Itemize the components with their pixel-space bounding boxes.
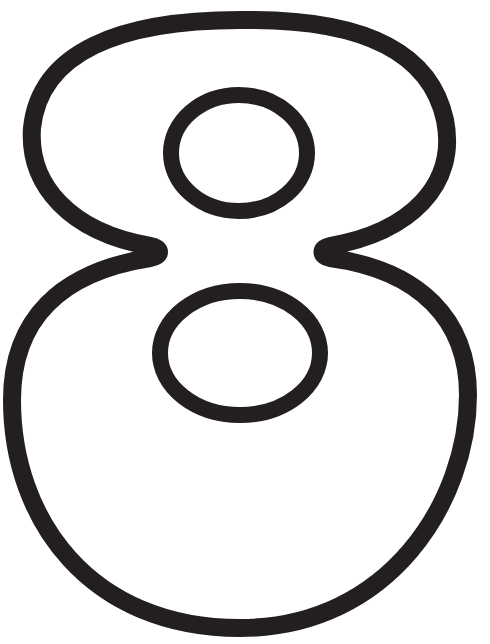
eight-outline-icon bbox=[0, 0, 490, 644]
upper-counter bbox=[171, 95, 307, 211]
lower-counter bbox=[160, 291, 320, 415]
outer-contour bbox=[12, 20, 468, 628]
numeral-eight-outline: 8 bbox=[0, 0, 490, 644]
